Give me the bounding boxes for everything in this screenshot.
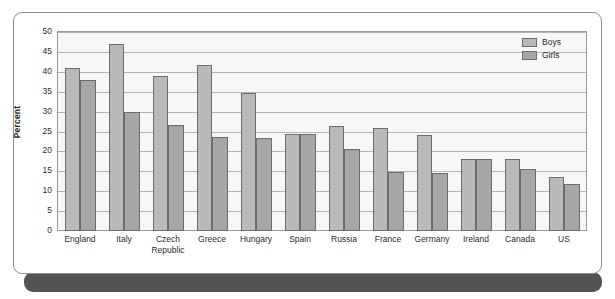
- bar-girls-greece: [212, 137, 228, 231]
- bar-boys-greece: [197, 65, 213, 231]
- bar-girls-italy: [124, 112, 140, 231]
- bar-girls-czech-republic: [168, 125, 184, 231]
- legend-label-boys: Boys: [542, 38, 561, 47]
- bar-girls-germany: [432, 173, 448, 232]
- bar-boys-england: [65, 68, 81, 231]
- y-tick-label: 35: [26, 87, 52, 96]
- chart-card: Percent 50454035302520151050 EnglandItal…: [13, 12, 602, 274]
- bar-chart: Percent 50454035302520151050 EnglandItal…: [14, 13, 603, 275]
- x-axis-tick-labels: EnglandItalyCzech RepublicGreeceHungaryS…: [58, 234, 586, 270]
- bar-boys-spain: [285, 134, 301, 232]
- bar-boys-russia: [329, 126, 345, 231]
- x-tick-label: Czech Republic: [146, 234, 190, 256]
- x-tick-label: Hungary: [234, 234, 278, 245]
- y-axis-title: Percent: [12, 106, 22, 139]
- y-tick-label: 40: [26, 67, 52, 76]
- legend-label-girls: Girls: [542, 51, 559, 60]
- x-tick-label: Russia: [322, 234, 366, 245]
- bar-girls-spain: [300, 134, 316, 232]
- bar-boys-us: [549, 177, 565, 231]
- x-tick-label: Germany: [410, 234, 454, 245]
- bar-boys-canada: [505, 159, 521, 231]
- x-tick-label: Italy: [102, 234, 146, 245]
- bar-girls-hungary: [256, 138, 272, 231]
- y-tick-label: 45: [26, 47, 52, 56]
- x-tick-label: Spain: [278, 234, 322, 245]
- card-shadow-bar: [24, 272, 602, 292]
- bar-girls-us: [564, 184, 580, 231]
- y-tick-label: 15: [26, 166, 52, 175]
- x-tick-label: Canada: [498, 234, 542, 245]
- y-tick-label: 30: [26, 107, 52, 116]
- legend-swatch-girls-icon: [522, 51, 537, 60]
- bar-boys-hungary: [241, 93, 257, 232]
- y-axis-tick-labels: 50454035302520151050: [22, 31, 52, 231]
- x-tick-label: England: [58, 234, 102, 245]
- y-tick-label: 50: [26, 27, 52, 36]
- y-tick-label: 10: [26, 186, 52, 195]
- bar-girls-russia: [344, 149, 360, 231]
- bar-boys-italy: [109, 44, 125, 231]
- bar-boys-france: [373, 128, 389, 231]
- chart-legend: Boys Girls: [522, 37, 582, 63]
- x-tick-label: Ireland: [454, 234, 498, 245]
- bar-boys-czech-republic: [153, 76, 169, 231]
- chart-page: Percent 50454035302520151050 EnglandItal…: [0, 0, 615, 299]
- y-tick-label: 5: [26, 206, 52, 215]
- legend-item-boys: Boys: [522, 37, 582, 48]
- bar-girls-canada: [520, 169, 536, 231]
- bars-layer: [58, 32, 586, 231]
- bar-girls-england: [80, 80, 96, 231]
- x-tick-label: US: [542, 234, 586, 245]
- legend-item-girls: Girls: [522, 50, 582, 61]
- bar-girls-france: [388, 172, 404, 231]
- bar-boys-germany: [417, 135, 433, 231]
- x-tick-label: Greece: [190, 234, 234, 245]
- y-tick-label: 20: [26, 146, 52, 155]
- bar-boys-ireland: [461, 159, 477, 231]
- y-tick-label: 0: [26, 226, 52, 235]
- bar-girls-ireland: [476, 159, 492, 231]
- legend-swatch-boys-icon: [522, 38, 537, 47]
- x-tick-label: France: [366, 234, 410, 245]
- y-tick-label: 25: [26, 127, 52, 136]
